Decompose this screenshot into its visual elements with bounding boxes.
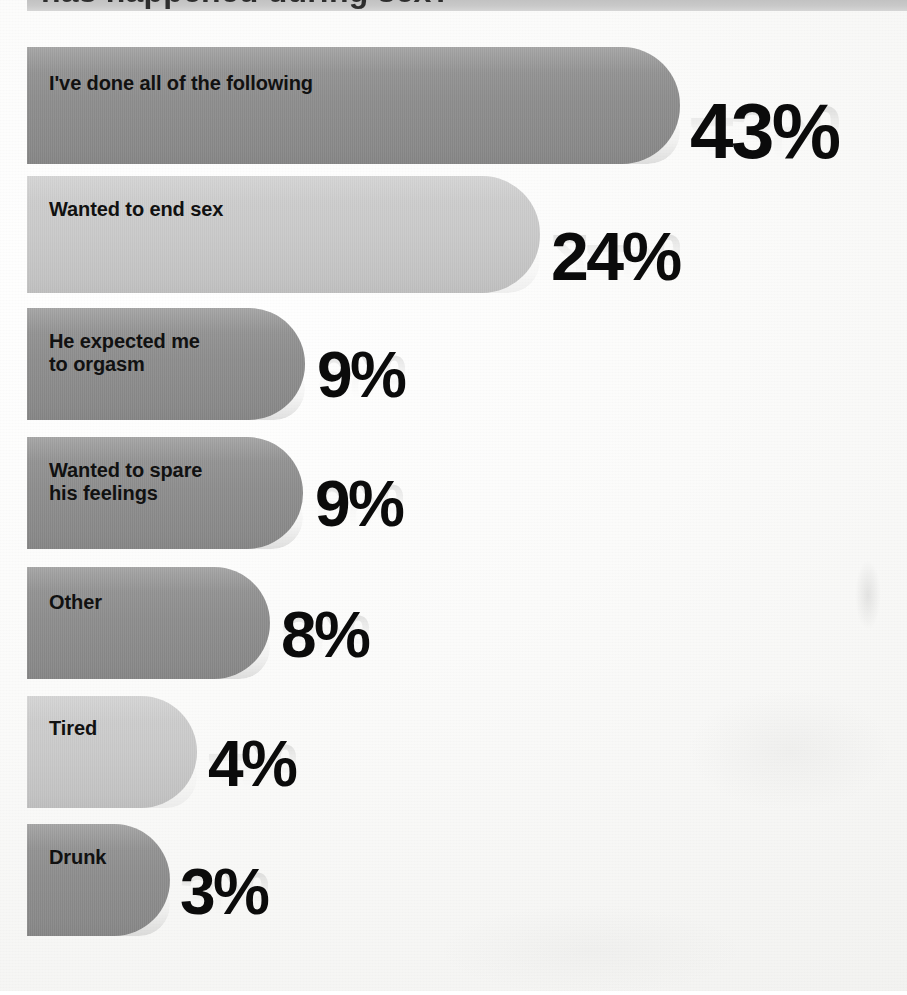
bar-label: I've done all of the following [49, 72, 313, 95]
bar-label: Tired [49, 717, 97, 740]
bar-label: Drunk [49, 846, 106, 869]
bar-row: Other [27, 567, 270, 679]
bar-value-label: 8% [281, 603, 369, 667]
bar-halftone-texture [27, 176, 540, 293]
bar-label: Wanted to end sex [49, 198, 223, 221]
bar-value-label: 9% [315, 472, 403, 536]
bar-halftone-texture [27, 567, 270, 679]
bar-row: Wanted to end sex [27, 176, 540, 293]
bar-value-label: 3% [180, 860, 268, 924]
bar-row: Wanted to spare his feelings [27, 437, 303, 549]
bar-fill [27, 176, 540, 293]
bar-gloss [27, 567, 270, 679]
bar-row: Tired [27, 696, 197, 808]
bar-gloss [27, 696, 197, 808]
bar-value-label: 4% [208, 732, 296, 796]
bar-value-label: 9% [317, 343, 405, 407]
bar-gloss [27, 47, 680, 164]
bar-row: He expected me to orgasm [27, 308, 305, 420]
bar-value-label: 43% [690, 92, 839, 170]
bar-label: He expected me to orgasm [49, 330, 200, 376]
bar-value-label: 24% [551, 222, 680, 290]
bar-row: I've done all of the following [27, 47, 680, 164]
bar-row: Drunk [27, 824, 170, 936]
bar-label: Wanted to spare his feelings [49, 459, 202, 505]
bar-fill [27, 567, 270, 679]
bar-halftone-texture [27, 47, 680, 164]
bar-fill [27, 696, 197, 808]
bar-gloss [27, 824, 170, 936]
bar-label: Other [49, 591, 102, 614]
bar-gloss [27, 176, 540, 293]
bar-halftone-texture [27, 824, 170, 936]
bar-fill [27, 47, 680, 164]
bar-halftone-texture [27, 696, 197, 808]
bar-fill [27, 824, 170, 936]
